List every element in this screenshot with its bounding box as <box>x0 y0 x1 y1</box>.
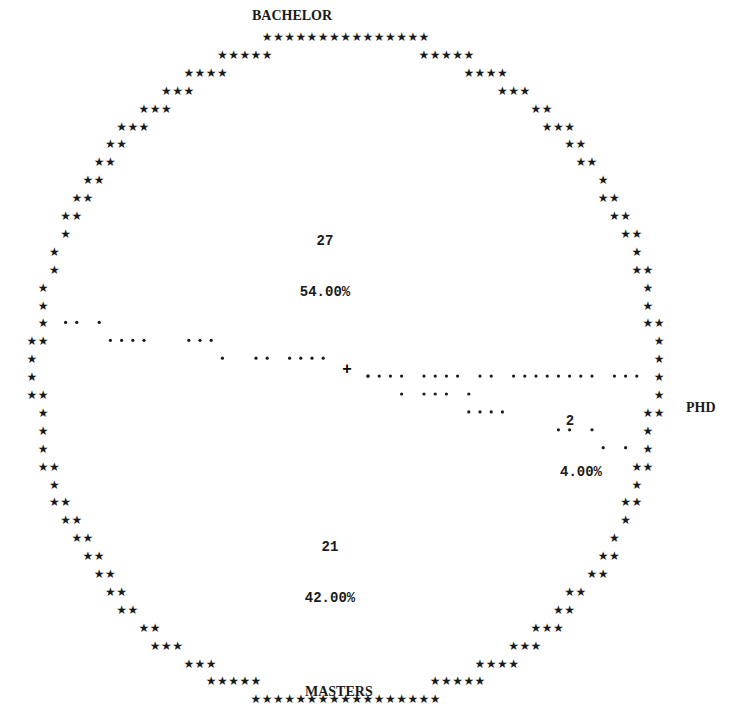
outline-star: ★ <box>217 66 228 80</box>
outline-star: ★ <box>441 674 452 688</box>
outline-star: ★ <box>351 692 362 706</box>
divider-dot-1 <box>389 375 392 378</box>
divider-dot-1 <box>624 446 627 449</box>
outline-star: ★ <box>519 639 530 653</box>
outline-star: ★ <box>508 84 519 98</box>
divider-dot-0 <box>590 375 593 378</box>
divider-dot-0 <box>557 375 560 378</box>
outline-star: ★ <box>60 495 71 509</box>
outline-star: ★ <box>228 674 239 688</box>
divider-dot-0 <box>490 375 493 378</box>
outline-star: ★ <box>475 66 486 80</box>
outline-star: ★ <box>564 137 575 151</box>
outline-star: ★ <box>27 370 38 384</box>
outline-star: ★ <box>217 674 228 688</box>
outline-star: ★ <box>654 388 665 402</box>
outline-star: ★ <box>38 388 49 402</box>
divider-dot-2 <box>221 357 224 360</box>
outline-star: ★ <box>531 102 542 116</box>
divider-dot-2 <box>131 339 134 342</box>
outline-star: ★ <box>71 191 82 205</box>
outline-star: ★ <box>329 30 340 44</box>
outline-star: ★ <box>598 549 609 563</box>
outline-star: ★ <box>654 334 665 348</box>
outline-star: ★ <box>284 692 295 706</box>
outline-star: ★ <box>217 48 228 62</box>
divider-dot-1 <box>557 428 560 431</box>
outline-star: ★ <box>508 657 519 671</box>
outline-star: ★ <box>620 209 631 223</box>
outline-star: ★ <box>620 495 631 509</box>
outline-star: ★ <box>262 692 273 706</box>
divider-dot-0 <box>434 375 437 378</box>
outline-star: ★ <box>38 406 49 420</box>
outline-star: ★ <box>620 513 631 527</box>
outline-star: ★ <box>239 674 250 688</box>
divider-dot-0 <box>478 375 481 378</box>
outline-star: ★ <box>396 692 407 706</box>
divider-dot-1 <box>590 428 593 431</box>
outline-star: ★ <box>127 120 138 134</box>
outline-star: ★ <box>295 692 306 706</box>
center-marker: + <box>342 360 351 378</box>
outline-star: ★ <box>251 48 262 62</box>
outline-star: ★ <box>38 316 49 330</box>
divider-dot-2 <box>266 357 269 360</box>
outline-star: ★ <box>419 48 430 62</box>
outline-star: ★ <box>609 531 620 545</box>
divider-dot-0 <box>635 375 638 378</box>
outline-star: ★ <box>94 173 105 187</box>
outline-star: ★ <box>206 674 217 688</box>
outline-star: ★ <box>374 30 385 44</box>
outline-star: ★ <box>643 424 654 438</box>
outline-star: ★ <box>273 692 284 706</box>
outline-star: ★ <box>631 227 642 241</box>
divider-dot-2 <box>120 339 123 342</box>
outline-star: ★ <box>575 585 586 599</box>
outline-star: ★ <box>643 316 654 330</box>
outline-star: ★ <box>38 299 49 313</box>
outline-star: ★ <box>385 692 396 706</box>
outline-star: ★ <box>284 30 295 44</box>
outline-star: ★ <box>71 209 82 223</box>
outline-star: ★ <box>183 657 194 671</box>
outline-star: ★ <box>105 585 116 599</box>
outline-star: ★ <box>654 370 665 384</box>
divider-dot-0 <box>613 375 616 378</box>
outline-star: ★ <box>206 66 217 80</box>
divider-dot-0 <box>378 375 381 378</box>
outline-star: ★ <box>251 692 262 706</box>
outline-star: ★ <box>139 120 150 134</box>
outline-star: ★ <box>497 657 508 671</box>
outline-star: ★ <box>83 173 94 187</box>
outline-star: ★ <box>598 567 609 581</box>
outline-star: ★ <box>363 692 374 706</box>
outline-star: ★ <box>407 30 418 44</box>
outline-star: ★ <box>419 30 430 44</box>
outline-star: ★ <box>71 531 82 545</box>
divider-dot-2 <box>98 321 101 324</box>
divider-dot-2 <box>198 339 201 342</box>
outline-star: ★ <box>643 406 654 420</box>
outline-star: ★ <box>374 692 385 706</box>
outline-star: ★ <box>587 155 598 169</box>
outline-star: ★ <box>239 48 250 62</box>
outline-star: ★ <box>49 245 60 259</box>
outline-star: ★ <box>553 621 564 635</box>
outline-star: ★ <box>105 155 116 169</box>
divider-dot-1 <box>445 392 448 395</box>
divider-dot-2 <box>310 357 313 360</box>
divider-dot-2 <box>210 339 213 342</box>
outline-star: ★ <box>340 30 351 44</box>
outline-star: ★ <box>38 334 49 348</box>
outline-star: ★ <box>441 48 452 62</box>
outline-star: ★ <box>340 692 351 706</box>
outline-star: ★ <box>452 674 463 688</box>
outline-star: ★ <box>195 657 206 671</box>
divider-dot-0 <box>512 375 515 378</box>
outline-star: ★ <box>262 48 273 62</box>
outline-star: ★ <box>329 692 340 706</box>
outline-star: ★ <box>643 299 654 313</box>
outline-star: ★ <box>508 639 519 653</box>
divider-dot-1 <box>366 375 369 378</box>
